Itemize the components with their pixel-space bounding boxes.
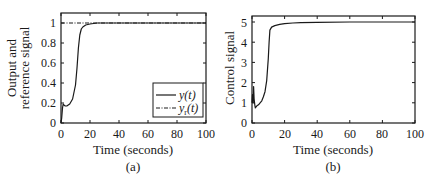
b-ytick-0: 0	[241, 116, 247, 130]
b-ylabel: Control signal	[222, 31, 237, 105]
caption-a: (a)	[126, 159, 140, 174]
a-xtick-100: 100	[197, 127, 215, 141]
b-xtick-20: 20	[279, 127, 291, 141]
a-xlabel: Time (seconds)	[93, 142, 173, 157]
a-ytick-0.4: 0.4	[41, 76, 56, 90]
caption-b: (b)	[325, 159, 340, 174]
b-xtick-40: 40	[311, 127, 323, 141]
b-ytick-3: 3	[241, 56, 247, 70]
a-xtick-40: 40	[113, 127, 125, 141]
a-ytick-0.8: 0.8	[41, 36, 56, 50]
a-ylabel-line2: reference signal	[17, 26, 32, 109]
plot-b-frame	[252, 16, 415, 123]
a-ytick-0.6: 0.6	[41, 56, 56, 70]
b-xlabel: Time (seconds)	[293, 142, 373, 157]
b-ytick-4: 4	[241, 36, 247, 50]
figure: 0 0.2 0.4 0.6 0.8 1 0 20 40 60 80 100 Ti…	[0, 0, 438, 179]
b-ytick-1: 1	[241, 96, 247, 110]
panel-a: 0 0.2 0.4 0.6 0.8 1 0 20 40 60 80 100 Ti…	[4, 13, 215, 174]
b-xtick-0: 0	[249, 127, 255, 141]
a-xtick-0: 0	[58, 127, 64, 141]
legend-label-yr: yr(t)	[178, 101, 198, 117]
b-ytick-5: 5	[241, 16, 247, 30]
b-xtick-80: 80	[376, 127, 388, 141]
b-xtick-60: 60	[344, 127, 356, 141]
a-xtick-80: 80	[171, 127, 183, 141]
plot-b-ticks	[252, 16, 415, 123]
a-xtick-20: 20	[84, 127, 96, 141]
legend-label-y: y(t)	[178, 88, 196, 102]
a-xtick-60: 60	[142, 127, 154, 141]
legend-a: y(t) yr(t)	[153, 83, 203, 117]
b-xtick-100: 100	[406, 127, 424, 141]
a-ytick-1: 1	[50, 16, 56, 30]
series-ut-line	[252, 22, 415, 108]
plot-b-curves	[252, 22, 415, 108]
a-ytick-0: 0	[50, 116, 56, 130]
a-ytick-0.2: 0.2	[41, 96, 56, 110]
panel-b: 0 1 2 3 4 5 0 20 40 60 80 100 Time (seco…	[222, 16, 424, 174]
b-ytick-2: 2	[241, 76, 247, 90]
